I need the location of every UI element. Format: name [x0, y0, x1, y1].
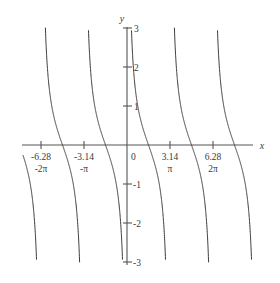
x-tick-sublabel-2pi: 2π [208, 164, 218, 174]
y-tick-label-2: 2 [134, 63, 139, 73]
y-tick-label-3: 3 [134, 24, 139, 34]
y-tick-label-neg3: -3 [133, 258, 141, 268]
y-tick-labels: 3 2 1 -1 -2 -3 [133, 24, 141, 268]
origin-label: 0 [131, 152, 136, 162]
y-tick-label-neg1: -1 [133, 180, 141, 190]
x-tick-label-pi: 3.14 [162, 152, 179, 162]
x-tick-sublabel-negpi: -π [80, 164, 88, 174]
x-tick-label-negpi: -3.14 [74, 152, 94, 162]
y-tick-label-1: 1 [134, 102, 139, 112]
x-axis-label: x [259, 140, 265, 151]
cotangent-plot-figure: -6.28 -2π -3.14 -π 3.14 π 6.28 2π 3 2 1 … [0, 0, 280, 283]
x-tick-sublabel-pi: π [168, 164, 173, 174]
plot-canvas: -6.28 -2π -3.14 -π 3.14 π 6.28 2π 3 2 1 … [0, 0, 280, 283]
y-axis-label: y [119, 13, 125, 24]
x-tick-label-neg2pi: -6.28 [31, 152, 51, 162]
x-tick-labels: -6.28 -2π -3.14 -π 3.14 π 6.28 2π [31, 152, 221, 174]
y-tick-label-neg2: -2 [133, 219, 141, 229]
x-tick-sublabel-neg2pi: -2π [35, 164, 48, 174]
x-tick-label-2pi: 6.28 [205, 152, 222, 162]
